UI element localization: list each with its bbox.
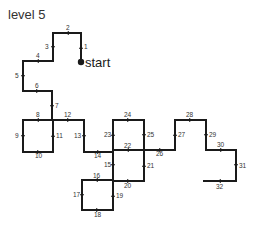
step-label: 32 xyxy=(216,183,224,190)
arrow-down-icon xyxy=(82,135,86,139)
arrow-right-icon xyxy=(220,148,224,152)
arrow-down-icon xyxy=(51,46,55,50)
arrow-down-icon xyxy=(142,134,146,138)
arrow-left-icon xyxy=(65,31,69,35)
start-label: start xyxy=(85,55,111,70)
arrow-down-icon xyxy=(21,135,25,139)
arrow-right-icon xyxy=(36,89,40,93)
arrow-up-icon xyxy=(173,132,177,136)
step-label: 5 xyxy=(15,72,19,79)
step-label: 29 xyxy=(209,131,217,138)
step-label: 19 xyxy=(116,192,124,199)
path-diagram: 1234567891011121314151617181920212223242… xyxy=(0,0,262,229)
step-label: 8 xyxy=(36,111,40,118)
arrow-down-icon xyxy=(234,164,238,168)
step-label: 21 xyxy=(147,162,155,169)
step-label: 30 xyxy=(217,141,225,148)
arrow-down-icon xyxy=(204,134,208,138)
arrow-down-icon xyxy=(80,194,84,198)
arrow-right-icon xyxy=(67,118,71,122)
step-label: 31 xyxy=(239,162,247,169)
step-label: 18 xyxy=(94,211,102,218)
arrow-up-icon xyxy=(79,45,83,49)
step-label: 14 xyxy=(94,152,102,159)
step-label: 13 xyxy=(74,132,82,139)
arrow-up-icon xyxy=(111,132,115,136)
step-label: 4 xyxy=(36,52,40,59)
step-label: 27 xyxy=(178,131,186,138)
step-label: 12 xyxy=(64,111,72,118)
arrow-left-icon xyxy=(35,118,39,122)
arrow-down-icon xyxy=(50,105,54,109)
step-label: 15 xyxy=(104,161,112,168)
step-label: 17 xyxy=(73,191,81,198)
arrow-left-icon xyxy=(35,59,39,63)
step-label: 2 xyxy=(66,24,70,31)
arrow-right-icon xyxy=(127,118,131,122)
step-label: 9 xyxy=(15,132,19,139)
step-label: 22 xyxy=(124,142,132,149)
step-label: 11 xyxy=(56,132,63,139)
step-label: 3 xyxy=(45,43,49,50)
start-point-icon xyxy=(78,59,84,65)
step-label: 24 xyxy=(124,111,132,118)
step-label: 25 xyxy=(147,131,155,138)
step-label: 16 xyxy=(93,172,101,179)
arrow-up-icon xyxy=(142,163,146,167)
step-label: 1 xyxy=(84,43,88,50)
arrow-up-icon xyxy=(51,133,55,137)
step-label: 20 xyxy=(124,182,132,189)
step-label: 28 xyxy=(186,111,194,118)
step-label: 10 xyxy=(35,152,43,159)
arrow-right-icon xyxy=(189,118,193,122)
step-label: 23 xyxy=(104,131,112,138)
arrow-up-icon xyxy=(111,193,115,197)
arrow-down-icon xyxy=(111,164,115,168)
arrow-down-icon xyxy=(21,75,25,79)
step-label: 26 xyxy=(156,150,164,157)
step-label: 7 xyxy=(55,102,59,109)
step-label: 6 xyxy=(35,82,39,89)
